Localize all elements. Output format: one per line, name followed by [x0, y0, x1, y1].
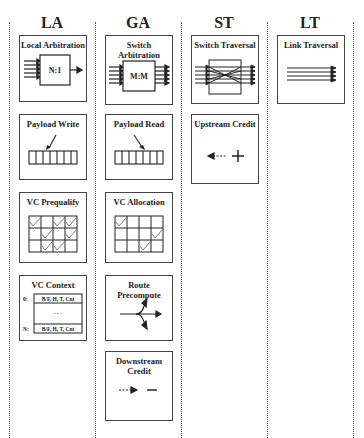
switch-arbitration-box: Switch Arbitration M:M [105, 35, 173, 105]
link-arrows-icon [278, 36, 344, 103]
credit-decrement-icon [106, 352, 172, 420]
buffer-write-icon [20, 115, 86, 179]
stage-title-st: ST [184, 14, 264, 32]
svg-text:B/F, H, T, Cnt: B/F, H, T, Cnt [42, 296, 75, 302]
stage-title-la: LA [12, 14, 92, 32]
svg-text:B/F, H, T, Cnt: B/F, H, T, Cnt [42, 326, 75, 332]
svg-text:0:: 0: [23, 296, 28, 302]
crossbar-icon [192, 36, 258, 103]
local-arbitration-box: Local Arbitration N:1 [19, 35, 87, 102]
stage-divider [353, 22, 354, 438]
link-traversal-box: Link Traversal [277, 35, 345, 104]
payload-read-box: Payload Read [105, 114, 173, 180]
vc-prequalify-box: VC Prequalify [19, 192, 87, 263]
downstream-credit-box: Downstream Credit [105, 351, 173, 421]
payload-write-box: Payload Write [19, 114, 87, 180]
stage-divider [95, 22, 96, 438]
svg-text:N:1: N:1 [49, 66, 61, 75]
vc-context-table-icon: 0: N: B/F, H, T, Cnt B/F, H, T, Cnt · · … [20, 276, 86, 340]
credit-increment-icon [192, 115, 258, 183]
route-precompute-box: Route Precompute [105, 275, 173, 341]
arbiter-n-to-1-icon: N:1 [20, 36, 86, 101]
route-branch-icon [106, 276, 172, 340]
svg-text:M:M: M:M [130, 72, 148, 81]
upstream-credit-box: Upstream Credit [191, 114, 259, 184]
vc-allocation-grid-icon [106, 193, 172, 262]
vc-allocation-box: VC Allocation [105, 192, 173, 263]
stage-title-ga: GA [98, 14, 178, 32]
arbiter-m-to-m-icon: M:M [106, 36, 172, 104]
svg-text:· · ·: · · · [54, 311, 62, 317]
buffer-read-icon [106, 115, 172, 179]
vc-prequalify-grid-icon [20, 193, 86, 262]
stage-divider [9, 22, 10, 438]
switch-traversal-box: Switch Traversal [191, 35, 259, 104]
svg-text:N:: N: [23, 326, 29, 332]
stage-divider [181, 22, 182, 438]
vc-context-box: VC Context 0: N: B/F, H, T, Cnt B/F, H, … [19, 275, 87, 341]
stage-title-lt: LT [270, 14, 350, 32]
stage-divider [267, 22, 268, 438]
